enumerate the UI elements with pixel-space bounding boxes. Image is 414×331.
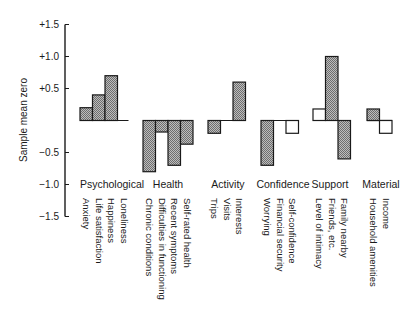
item-label: Trips <box>209 198 220 219</box>
bars <box>80 57 392 172</box>
y-axis: +1.5+1.0+0.5−0.5−1.0−1.5 <box>39 19 69 222</box>
bar <box>105 76 118 121</box>
item-label: Happiness <box>106 198 117 243</box>
y-tick-label: +0.5 <box>39 83 59 94</box>
item-label: Recent symptoms <box>169 198 180 274</box>
bar <box>233 82 246 120</box>
item-label: Chronic conditions <box>144 198 155 276</box>
bar <box>286 121 299 134</box>
bar <box>168 121 181 166</box>
bar <box>367 109 380 121</box>
bar <box>338 121 351 159</box>
y-tick-label: +1.0 <box>39 51 59 62</box>
y-tick-label: −0.5 <box>39 147 59 158</box>
item-label: Income <box>381 198 392 229</box>
item-label: Visits <box>222 198 233 221</box>
bar <box>380 121 393 134</box>
item-label: Self-rated health <box>182 198 193 268</box>
group-label: Health <box>153 178 184 190</box>
item-label: Loneliness <box>119 198 130 244</box>
group-label: Material <box>362 178 399 190</box>
bar <box>156 121 169 133</box>
y-axis-label: Sample mean zero <box>18 78 29 162</box>
item-label: Household amenities <box>368 198 379 287</box>
item-label: Life satisfaction <box>94 198 105 263</box>
bar <box>80 108 93 121</box>
item-label: Interests <box>234 198 245 235</box>
y-tick-label: −1.0 <box>39 179 59 190</box>
group-label: Psychological <box>80 178 144 190</box>
bar <box>261 121 274 166</box>
item-label: Level of intimacy <box>314 198 325 269</box>
item-label: Friends, etc. <box>327 198 338 250</box>
y-tick-label: −1.5 <box>39 211 59 222</box>
group-label: Activity <box>211 178 245 190</box>
bar <box>313 109 326 121</box>
group-label: Support <box>312 178 349 190</box>
bar <box>208 121 221 134</box>
item-label: Financial security <box>275 198 286 272</box>
bar <box>93 95 106 121</box>
bar <box>326 57 339 121</box>
item-label: Family nearby <box>339 198 350 258</box>
item-label: Difficulties in functioning <box>157 198 168 300</box>
item-label: Worrying <box>262 198 273 236</box>
y-tick-label: +1.5 <box>39 19 59 30</box>
item-label: Self-confidence <box>287 198 298 263</box>
bar <box>181 121 194 145</box>
labels: Sample mean zeroAnxietyLife satisfaction… <box>18 78 400 300</box>
group-label: Confidence <box>256 178 309 190</box>
item-label: Anxiety <box>81 198 92 229</box>
bar-chart: +1.5+1.0+0.5−0.5−1.0−1.5 Sample mean zer… <box>0 0 414 331</box>
bar <box>143 121 156 172</box>
